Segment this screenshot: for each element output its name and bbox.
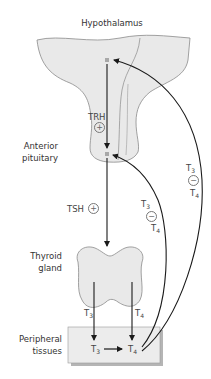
thyroid-gland-label-line2: gland — [14, 263, 62, 274]
hypothalamus-marker — [105, 58, 109, 62]
feedback-t4-label: T4 — [151, 223, 160, 236]
tsh-label: TSH — [67, 204, 84, 214]
plus-sign-icon: + — [88, 203, 99, 214]
thyroid-gland-shape — [77, 247, 143, 307]
pituitary-marker — [105, 152, 109, 156]
peripheral-tissues-box — [68, 327, 163, 366]
peripheral-tissues-label-line1: Peripheral — [10, 334, 62, 345]
minus-sign-icon: − — [188, 175, 199, 186]
thyroid-gland-label-line1: Thyroid — [14, 251, 62, 262]
plus-sign-icon: + — [94, 122, 105, 133]
secreted-t4-label: T4 — [135, 308, 144, 321]
hypothalamus-label: Hypothalamus — [72, 18, 152, 29]
anterior-pituitary-label-line2: pituitary — [14, 153, 58, 164]
feedback-t3-label: T3 — [141, 199, 150, 212]
trh-label: TRH — [88, 112, 106, 122]
feedback-t4-label: T4 — [190, 188, 199, 201]
minus-sign-icon: − — [146, 211, 157, 222]
peripheral-t4-label: T4 — [128, 344, 137, 357]
anterior-pituitary-label-line1: Anterior — [14, 141, 58, 152]
peripheral-t3-label: T3 — [91, 344, 100, 357]
diagram-canvas — [0, 0, 211, 379]
secreted-t3-label: T3 — [84, 308, 93, 321]
hypothalamus-shape — [37, 35, 190, 162]
peripheral-tissues-label-line2: tissues — [10, 346, 62, 357]
thyroid-axis-diagram: Hypothalamus Anterior pituitary Thyroid … — [0, 0, 211, 379]
